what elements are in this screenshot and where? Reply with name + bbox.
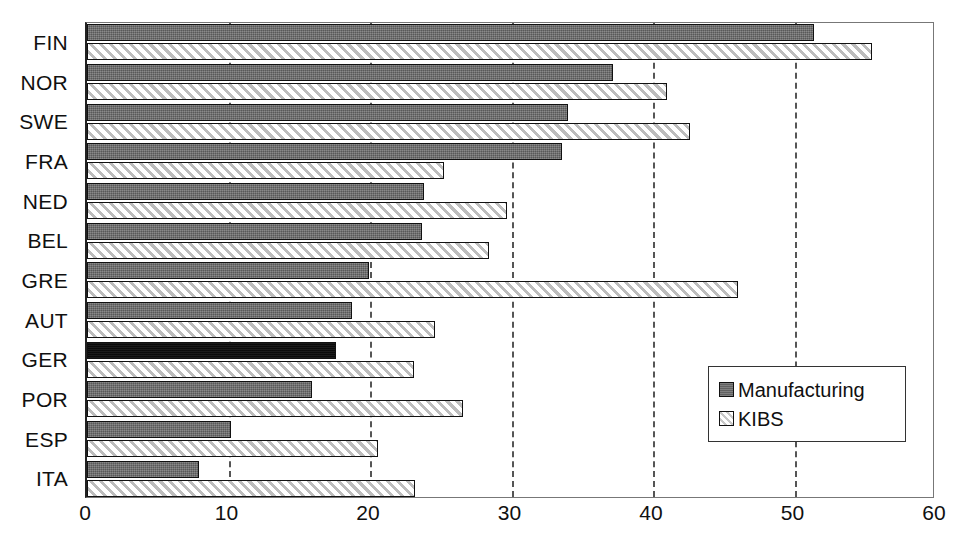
bar-kibs-aut — [87, 321, 435, 338]
y-tick-ned: NED — [23, 190, 68, 211]
legend-label-manufacturing: Manufacturing — [738, 380, 865, 400]
y-tick-ita: ITA — [36, 468, 68, 489]
bar-kibs-bel — [87, 242, 489, 259]
y-tick-gre: GRE — [22, 269, 68, 290]
x-tick-30: 30 — [498, 502, 521, 523]
y-tick-esp: ESP — [25, 428, 68, 449]
bar-manufacturing-ger — [87, 342, 336, 359]
x-tick-50: 50 — [781, 502, 804, 523]
bar-manufacturing-ned — [87, 183, 424, 200]
bar-kibs-nor — [87, 83, 667, 100]
bar-manufacturing-swe — [87, 104, 568, 121]
bar-manufacturing-esp — [87, 421, 231, 438]
legend-swatch-manufacturing-icon — [719, 382, 734, 397]
y-tick-fin: FIN — [33, 31, 68, 52]
bar-manufacturing-gre — [87, 262, 369, 279]
legend-swatch-kibs-icon — [719, 411, 734, 426]
x-tick-20: 20 — [356, 502, 379, 523]
bar-manufacturing-fin — [87, 24, 814, 41]
y-tick-ger: GER — [22, 349, 68, 370]
bar-kibs-ita — [87, 480, 415, 497]
bar-chart: FINNORSWEFRANEDBELGREAUTGERPORESPITA 010… — [0, 0, 967, 556]
y-tick-swe: SWE — [19, 111, 68, 132]
y-tick-por: POR — [22, 388, 68, 409]
x-tick-60: 60 — [922, 502, 945, 523]
chart-legend: Manufacturing KIBS — [708, 366, 906, 442]
legend-label-kibs: KIBS — [738, 409, 784, 429]
bar-kibs-fra — [87, 162, 444, 179]
bar-kibs-ned — [87, 202, 507, 219]
x-axis-labels: 0102030405060 — [0, 502, 967, 542]
bar-manufacturing-fra — [87, 143, 562, 160]
bar-manufacturing-ita — [87, 461, 199, 478]
bar-kibs-gre — [87, 281, 738, 298]
bar-kibs-esp — [87, 440, 378, 457]
y-tick-bel: BEL — [27, 230, 68, 251]
y-tick-aut: AUT — [25, 309, 68, 330]
legend-item-kibs: KIBS — [719, 404, 905, 433]
x-tick-40: 40 — [639, 502, 662, 523]
y-axis-labels: FINNORSWEFRANEDBELGREAUTGERPORESPITA — [0, 22, 78, 498]
legend-item-manufacturing: Manufacturing — [719, 375, 905, 404]
y-tick-fra: FRA — [25, 150, 68, 171]
bar-kibs-fin — [87, 43, 872, 60]
bar-manufacturing-nor — [87, 64, 613, 81]
bar-manufacturing-aut — [87, 302, 352, 319]
x-tick-10: 10 — [215, 502, 238, 523]
bar-manufacturing-bel — [87, 223, 422, 240]
bar-kibs-ger — [87, 361, 414, 378]
y-tick-nor: NOR — [20, 71, 68, 92]
bar-kibs-por — [87, 400, 463, 417]
x-tick-0: 0 — [79, 502, 91, 523]
bar-manufacturing-por — [87, 381, 312, 398]
bar-kibs-swe — [87, 123, 690, 140]
